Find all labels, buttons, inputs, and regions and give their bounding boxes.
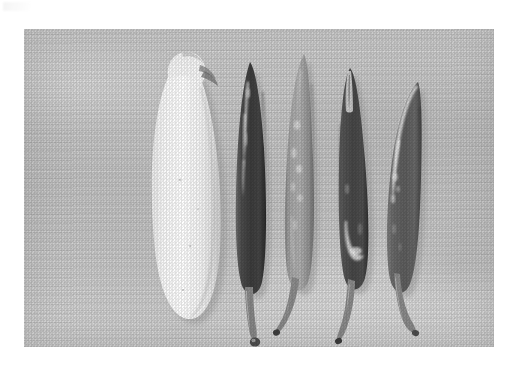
photo-film-grain xyxy=(24,29,494,347)
photograph xyxy=(24,29,494,347)
page-corner-smudge xyxy=(3,2,31,11)
